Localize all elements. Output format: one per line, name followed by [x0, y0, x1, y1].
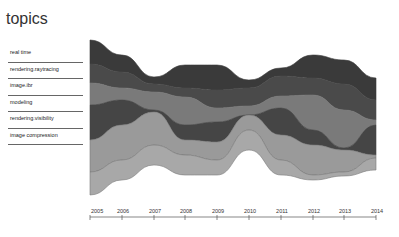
x-tick-label: 2005: [91, 208, 103, 214]
x-tick-label: 2011: [276, 208, 288, 214]
x-tick-label: 2012: [308, 208, 320, 214]
x-tick-label: 2007: [149, 208, 161, 214]
x-tick-label: 2014: [371, 208, 383, 214]
x-tick-label: 2013: [339, 208, 351, 214]
x-tick-label: 2006: [117, 208, 129, 214]
streamgraph-chart: 2005200620072008200920102011201220132014: [0, 0, 399, 237]
x-tick-label: 2009: [212, 208, 224, 214]
x-tick-label: 2008: [180, 208, 192, 214]
x-axis: 2005200620072008200920102011201220132014: [90, 208, 383, 220]
x-tick-label: 2010: [244, 208, 256, 214]
stream-layers: [90, 40, 376, 195]
